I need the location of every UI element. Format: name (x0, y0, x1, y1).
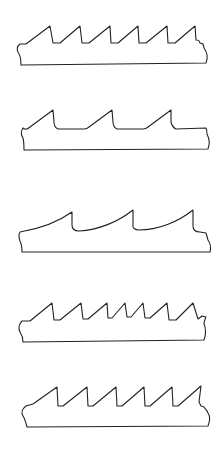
saw-blade-diagram (0, 0, 224, 462)
